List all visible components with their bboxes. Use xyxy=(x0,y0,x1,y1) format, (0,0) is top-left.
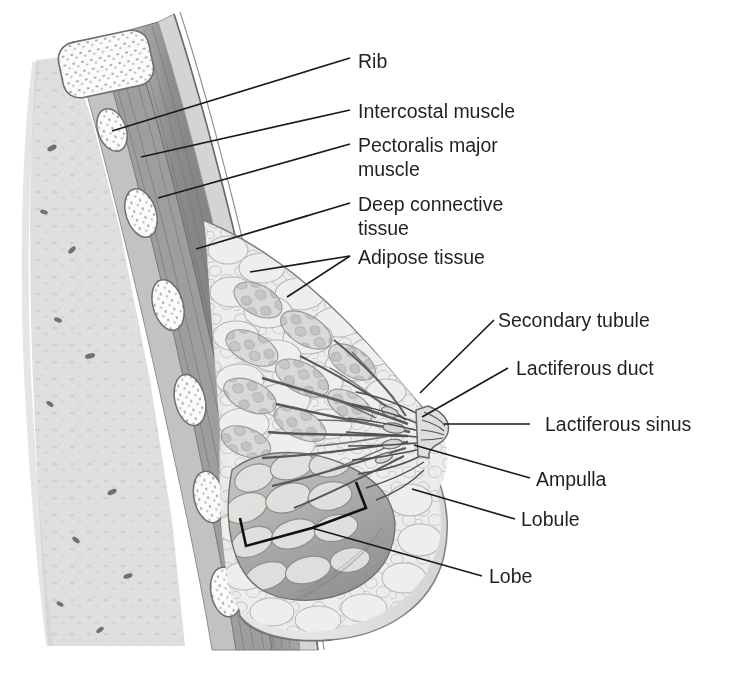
label-lactiferous-duct: Lactiferous duct xyxy=(516,357,654,379)
label-pectoralis-major-line2: muscle xyxy=(358,158,420,180)
label-ampulla: Ampulla xyxy=(536,468,607,490)
label-deep-connective-line1: Deep connective xyxy=(358,193,503,215)
anatomy-figure: Rib Intercostal muscle Pectoralis major … xyxy=(0,0,740,682)
label-secondary-tubule: Secondary tubule xyxy=(498,309,650,331)
breast-anatomy-illustration: Rib Intercostal muscle Pectoralis major … xyxy=(0,0,740,682)
label-pectoralis-major-line1: Pectoralis major xyxy=(358,134,498,156)
label-intercostal-muscle: Intercostal muscle xyxy=(358,100,515,122)
label-lactiferous-sinus: Lactiferous sinus xyxy=(545,413,692,435)
label-adipose-tissue: Adipose tissue xyxy=(358,246,485,268)
label-lobule: Lobule xyxy=(521,508,580,530)
label-lobe: Lobe xyxy=(489,565,532,587)
label-rib: Rib xyxy=(358,50,387,72)
label-deep-connective-line2: tissue xyxy=(358,217,409,239)
